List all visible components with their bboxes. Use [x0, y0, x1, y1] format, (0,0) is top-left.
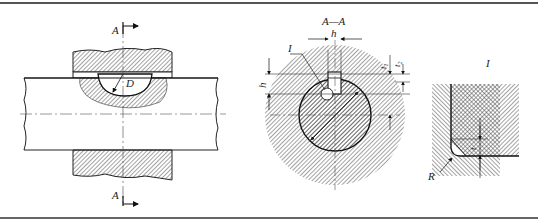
depth-t2-label: t2	[392, 61, 403, 67]
radius-label: R	[427, 170, 435, 182]
main-view: A A D	[20, 22, 226, 206]
keyway-width-label: h	[331, 27, 337, 39]
section-label-bottom: A	[111, 189, 119, 201]
section-title: A—A	[321, 15, 346, 27]
diameter-label: D	[125, 77, 134, 89]
key-height-label: h	[256, 82, 268, 88]
technical-drawing: A A D A	[0, 0, 538, 220]
detail-I-marker-label: I	[287, 42, 293, 54]
section-view: A—A h h I t1 t2	[256, 15, 410, 190]
detail-view: I R t	[427, 57, 519, 182]
detail-title: I	[485, 57, 491, 69]
section-label-top: A	[111, 24, 119, 36]
